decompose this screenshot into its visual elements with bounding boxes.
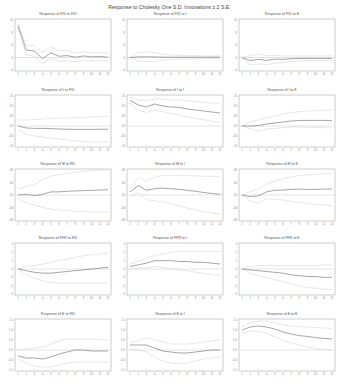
svg-text:.04: .04 — [121, 181, 125, 185]
svg-text:4: 4 — [266, 296, 268, 300]
svg-text:6: 6 — [58, 296, 60, 300]
svg-text:.08: .08 — [9, 168, 13, 172]
svg-text:4: 4 — [11, 43, 13, 47]
svg-text:0: 0 — [11, 56, 13, 60]
svg-text:-1.0: -1.0 — [232, 368, 237, 372]
svg-text:3: 3 — [146, 296, 148, 300]
svg-text:6: 6 — [282, 372, 284, 376]
svg-text:1.5: 1.5 — [9, 318, 13, 322]
svg-text:7: 7 — [66, 372, 68, 376]
svg-text:.00: .00 — [121, 124, 125, 128]
svg-text:12: 12 — [218, 222, 222, 226]
svg-text:8: 8 — [298, 148, 300, 152]
svg-text:0: 0 — [123, 56, 125, 60]
svg-text:4: 4 — [42, 72, 44, 76]
svg-text:-2: -2 — [11, 284, 14, 288]
svg-text:1: 1 — [235, 259, 237, 263]
panel-plot: .15.10.05.00-.05-.10123456789101112 — [116, 88, 224, 156]
svg-text:1: 1 — [17, 296, 19, 300]
svg-text:-2: -2 — [123, 284, 126, 288]
svg-text:8: 8 — [186, 296, 188, 300]
svg-text:3: 3 — [146, 148, 148, 152]
svg-text:1.0: 1.0 — [9, 328, 13, 332]
svg-text:1.0: 1.0 — [233, 328, 237, 332]
svg-text:-3: -3 — [123, 292, 126, 296]
svg-text:-4: -4 — [235, 68, 238, 72]
svg-text:9: 9 — [307, 296, 309, 300]
svg-text:11: 11 — [322, 372, 325, 376]
svg-text:5: 5 — [50, 296, 52, 300]
svg-text:-.04: -.04 — [120, 206, 125, 210]
svg-text:5: 5 — [274, 296, 276, 300]
svg-text:8: 8 — [186, 148, 188, 152]
svg-text:9: 9 — [83, 296, 85, 300]
svg-text:1: 1 — [129, 148, 131, 152]
irf-panel: Response of I to E.15.10.05.00-.05-.1012… — [228, 88, 336, 156]
svg-text:.00: .00 — [233, 124, 237, 128]
svg-text:12: 12 — [330, 222, 334, 226]
svg-text:12: 12 — [330, 372, 334, 376]
svg-text:5: 5 — [162, 222, 164, 226]
svg-text:4: 4 — [154, 222, 156, 226]
svg-text:1: 1 — [17, 372, 19, 376]
svg-text:0.5: 0.5 — [121, 338, 125, 342]
svg-text:2: 2 — [235, 250, 237, 254]
svg-text:.00: .00 — [9, 124, 13, 128]
svg-text:12: 12 — [218, 296, 222, 300]
svg-text:12: 12 — [234, 18, 238, 22]
svg-text:12: 12 — [330, 72, 334, 76]
svg-text:-4: -4 — [123, 68, 126, 72]
svg-text:-.08: -.08 — [8, 218, 13, 222]
svg-text:12: 12 — [122, 18, 126, 22]
svg-text:10: 10 — [90, 372, 94, 376]
svg-text:9: 9 — [307, 148, 309, 152]
svg-text:0.5: 0.5 — [233, 338, 237, 342]
svg-text:10: 10 — [202, 148, 206, 152]
svg-text:.10: .10 — [121, 104, 125, 108]
panel-plot: .15.10.05.00-.05-.10123456789101112 — [4, 88, 112, 156]
svg-text:4: 4 — [154, 296, 156, 300]
svg-text:4: 4 — [154, 148, 156, 152]
svg-text:4: 4 — [42, 222, 44, 226]
svg-text:4: 4 — [154, 372, 156, 376]
svg-text:6: 6 — [282, 296, 284, 300]
irf-panel: Response of FID to FID12840-412345678910… — [4, 12, 112, 80]
svg-text:8: 8 — [123, 31, 125, 35]
panel-plot: 3210-1-2-3123456789101112 — [4, 236, 112, 304]
panel-plot: 1.51.00.50.0-0.5-1.0123456789101112 — [228, 312, 336, 380]
svg-text:9: 9 — [83, 372, 85, 376]
svg-text:5: 5 — [274, 72, 276, 76]
svg-text:2: 2 — [137, 222, 139, 226]
irf-panel: Response of E to I1.51.00.50.0-0.5-1.012… — [116, 312, 224, 380]
svg-text:8: 8 — [186, 72, 188, 76]
irf-panel: Response of M to I.08.04.00-.04-.0812345… — [116, 162, 224, 230]
svg-text:1: 1 — [241, 72, 243, 76]
svg-text:11: 11 — [322, 296, 325, 300]
svg-text:-.05: -.05 — [120, 134, 125, 138]
svg-text:1: 1 — [11, 259, 13, 263]
svg-text:8: 8 — [298, 296, 300, 300]
svg-text:10: 10 — [314, 148, 318, 152]
svg-text:5: 5 — [162, 72, 164, 76]
svg-text:5: 5 — [162, 148, 164, 152]
svg-text:11: 11 — [210, 296, 213, 300]
svg-text:7: 7 — [290, 372, 292, 376]
svg-text:0.0: 0.0 — [233, 348, 237, 352]
svg-text:6: 6 — [58, 72, 60, 76]
svg-text:5: 5 — [274, 222, 276, 226]
svg-text:6: 6 — [282, 72, 284, 76]
svg-text:7: 7 — [66, 148, 68, 152]
panel-plot: .15.10.05.00-.05-.10123456789101112 — [228, 88, 336, 156]
svg-text:2: 2 — [137, 148, 139, 152]
panel-plot: .08.04.00-.04-.08123456789101112 — [4, 162, 112, 230]
svg-text:4: 4 — [266, 148, 268, 152]
svg-text:.05: .05 — [9, 114, 13, 118]
svg-text:3: 3 — [34, 222, 36, 226]
svg-text:11: 11 — [210, 222, 213, 226]
svg-text:2: 2 — [137, 372, 139, 376]
svg-text:-.04: -.04 — [8, 206, 13, 210]
svg-text:3: 3 — [146, 372, 148, 376]
svg-text:6: 6 — [170, 72, 172, 76]
svg-text:6: 6 — [170, 296, 172, 300]
svg-text:7: 7 — [290, 72, 292, 76]
